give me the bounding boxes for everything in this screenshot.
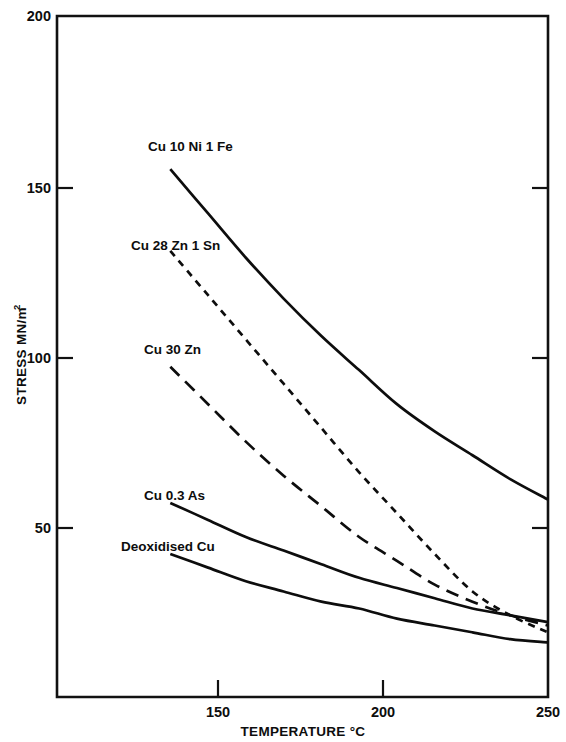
stress-temperature-line-chart: 200 150 100 50 150 200 250 TEMPERATURE °… (0, 0, 566, 742)
y-axis-tick-labels: 200 150 100 50 (27, 8, 51, 536)
axis-box (57, 16, 548, 697)
curve-cu-30-zn (170, 367, 548, 626)
x-tick-label-150: 150 (206, 704, 230, 720)
x-tick-label-250: 250 (536, 704, 560, 720)
curve-cu-10-ni-1-fe (170, 169, 548, 499)
y-axis-title-superscript: 2 (11, 305, 22, 310)
y-tick-label-150: 150 (27, 180, 51, 196)
y-axis-title: STRESS MN/m (14, 307, 29, 405)
series-label-cu-28-zn-1-sn: Cu 28 Zn 1 Sn (131, 238, 220, 253)
plot-frame (57, 16, 548, 697)
y-axis-ticks-right (532, 188, 548, 528)
curve-deoxidised-cu (170, 554, 548, 643)
y-tick-label-50: 50 (35, 520, 51, 536)
chart-container: 200 150 100 50 150 200 250 TEMPERATURE °… (0, 0, 566, 742)
series-label-cu-03-as: Cu 0.3 As (144, 488, 205, 503)
x-axis-title: TEMPERATURE °C (241, 724, 366, 739)
series-labels: Cu 10 Ni 1 Fe Cu 28 Zn 1 Sn Cu 30 Zn Cu … (121, 139, 233, 554)
y-tick-label-100: 100 (27, 350, 51, 366)
y-tick-label-200: 200 (27, 8, 51, 24)
x-axis-ticks (218, 680, 383, 697)
x-tick-label-200: 200 (371, 704, 395, 720)
x-axis-tick-labels: 150 200 250 (206, 704, 560, 720)
series-label-cu-30-zn: Cu 30 Zn (144, 342, 201, 357)
y-axis-ticks (57, 188, 73, 528)
curve-cu-03-as (170, 503, 548, 622)
series-label-deoxidised-cu: Deoxidised Cu (121, 539, 215, 554)
series-label-cu-10-ni-1-fe: Cu 10 Ni 1 Fe (148, 139, 233, 154)
y-axis-title-group: STRESS MN/m 2 (11, 305, 29, 405)
data-curves (170, 169, 548, 642)
